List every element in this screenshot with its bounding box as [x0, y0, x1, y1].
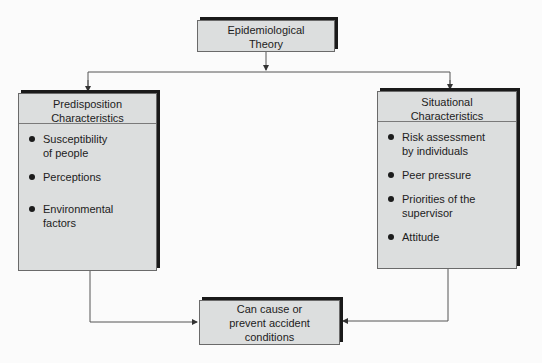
- right-header-line2: Characteristics: [378, 109, 516, 123]
- top-label-line2: Theory: [198, 37, 334, 51]
- predisposition-characteristics-box: Predisposition Characteristics Susceptib…: [18, 93, 157, 271]
- list-item: Peer pressure: [388, 168, 516, 182]
- item-text: Susceptibility: [43, 132, 156, 146]
- left-header-line1: Predisposition: [19, 97, 156, 111]
- item-text: Peer pressure: [402, 168, 516, 182]
- left-header-line2: Characteristics: [19, 111, 156, 125]
- item-text: Priorities of the: [402, 192, 516, 206]
- bullet-icon: [388, 196, 394, 202]
- bullet-icon: [29, 174, 35, 180]
- item-text: by individuals: [402, 144, 516, 158]
- right-items-list: Risk assessmentby individuals Peer press…: [378, 122, 516, 244]
- bullet-icon: [388, 234, 394, 240]
- bullet-icon: [29, 136, 35, 142]
- item-text: supervisor: [402, 206, 516, 220]
- item-text: Perceptions: [43, 170, 156, 184]
- item-text: Risk assessment: [402, 130, 516, 144]
- top-label-line1: Epidemiological: [198, 23, 334, 37]
- item-text: Environmental: [43, 202, 156, 216]
- bullet-icon: [29, 206, 35, 212]
- list-item: Perceptions: [29, 170, 156, 184]
- situational-characteristics-box: Situational Characteristics Risk assessm…: [377, 91, 517, 269]
- bullet-icon: [388, 134, 394, 140]
- left-box-header: Predisposition Characteristics: [19, 94, 156, 124]
- list-item: Environmentalfactors: [29, 202, 156, 230]
- right-box-header: Situational Characteristics: [378, 92, 516, 122]
- bottom-label-line3: conditions: [200, 330, 339, 344]
- list-item: Attitude: [388, 230, 516, 244]
- accident-conditions-box: Can cause or prevent accident conditions: [199, 300, 340, 345]
- list-item: Priorities of thesupervisor: [388, 192, 516, 220]
- list-item: Risk assessmentby individuals: [388, 130, 516, 158]
- list-item: Susceptibilityof people: [29, 132, 156, 160]
- right-header-line1: Situational: [378, 95, 516, 109]
- epidemiological-theory-box: Epidemiological Theory: [197, 20, 335, 52]
- bottom-label-line1: Can cause or: [200, 302, 339, 316]
- item-text: factors: [43, 216, 156, 230]
- bottom-label-line2: prevent accident: [200, 316, 339, 330]
- item-text: Attitude: [402, 230, 516, 244]
- left-items-list: Susceptibilityof people Perceptions Envi…: [19, 124, 156, 230]
- bullet-icon: [388, 172, 394, 178]
- item-text: of people: [43, 146, 156, 160]
